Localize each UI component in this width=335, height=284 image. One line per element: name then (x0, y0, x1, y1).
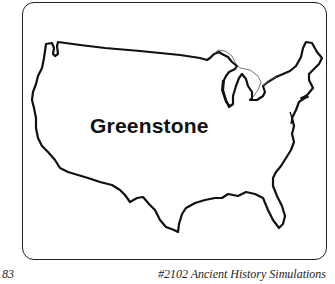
page-number: 83 (2, 267, 14, 282)
map-label: Greenstone (90, 114, 209, 138)
us-map-outline (0, 0, 335, 284)
footer-title: #2102 Ancient History Simulations (158, 267, 326, 282)
